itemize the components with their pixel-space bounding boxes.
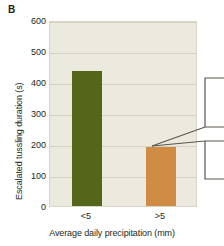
y-axis-tick-label: 600 <box>20 16 46 26</box>
y-axis-tick-label: 500 <box>20 47 46 57</box>
y-axis-tick-label: 300 <box>20 109 46 119</box>
x-axis-title: Average daily precipitation (mm) <box>0 228 224 239</box>
gridline <box>50 53 196 54</box>
y-axis-tick-label: 100 <box>20 171 46 181</box>
y-axis-tick-label: 0 <box>20 202 46 212</box>
y-axis-tick-label: 200 <box>20 140 46 150</box>
y-axis-tick-label: 400 <box>20 78 46 88</box>
plot-area <box>49 21 197 207</box>
gridline <box>50 22 196 23</box>
bar <box>146 147 176 206</box>
bar <box>72 71 102 206</box>
figure-panel-b: B Escalated tussling duration (s) 010020… <box>0 0 224 246</box>
x-axis-tick-label: <5 <box>66 211 106 222</box>
x-axis-tick-label: >5 <box>140 211 180 222</box>
y-axis-tick-labels: 0100200300400500600 <box>18 0 46 246</box>
panel-label: B <box>8 4 15 16</box>
